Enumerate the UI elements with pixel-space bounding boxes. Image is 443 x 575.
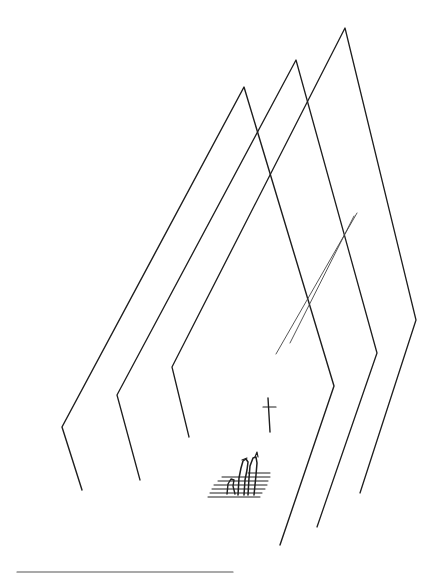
cross-icon [263, 398, 276, 432]
figures-on-steps [208, 452, 270, 497]
diagonal-line-2 [290, 216, 354, 343]
frame-2-outline [117, 60, 377, 527]
sketch-illustration [0, 0, 443, 575]
frame-3-outline [172, 28, 416, 493]
church-frames [62, 28, 416, 545]
cross-vertical [268, 398, 270, 432]
